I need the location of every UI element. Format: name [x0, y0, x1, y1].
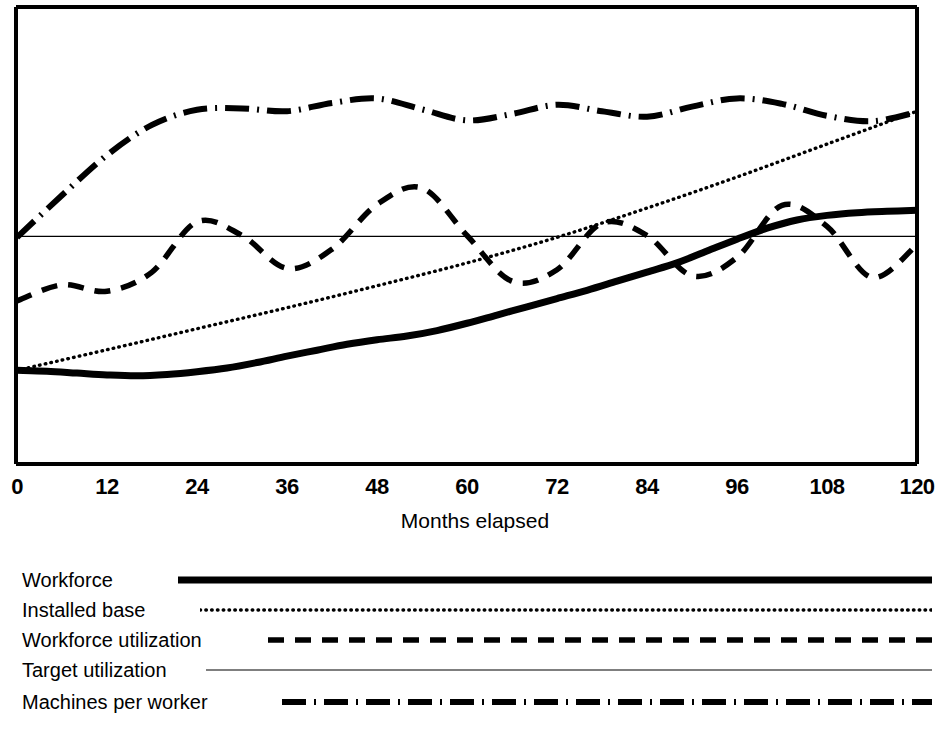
x-tick-label-48: 48 — [365, 474, 388, 500]
x-tick-label-60: 60 — [455, 474, 478, 500]
chart-figure: 01224364860728496108120 Months elapsed W… — [0, 0, 950, 742]
x-tick-label-72: 72 — [545, 474, 568, 500]
legend-line-sample-target-utilization — [206, 658, 932, 682]
legend-row-workforce[interactable]: Workforce — [0, 568, 950, 598]
plot-background — [0, 0, 950, 500]
legend-label-workforce: Workforce — [22, 568, 113, 592]
legend-label-workforce-utilization: Workforce utilization — [22, 628, 202, 652]
x-axis-title: Months elapsed — [0, 508, 950, 534]
legend-row-workforce-utilization[interactable]: Workforce utilization — [0, 628, 950, 658]
legend-label-installed-base: Installed base — [22, 598, 145, 622]
legend-row-target-utilization[interactable]: Target utilization — [0, 658, 950, 688]
legend-line-sample-workforce — [178, 568, 932, 592]
x-tick-label-84: 84 — [635, 474, 658, 500]
legend-line-sample-workforce-utilization — [268, 628, 932, 652]
x-tick-label-36: 36 — [275, 474, 298, 500]
legend-row-machines-per-worker[interactable]: Machines per worker — [0, 690, 950, 720]
chart-legend: WorkforceInstalled baseWorkforce utiliza… — [0, 560, 950, 742]
legend-row-installed-base[interactable]: Installed base — [0, 598, 950, 628]
legend-line-sample-machines-per-worker — [282, 690, 932, 714]
legend-label-machines-per-worker: Machines per worker — [22, 690, 208, 714]
legend-line-sample-installed-base — [200, 598, 932, 622]
x-axis-tick-labels: 01224364860728496108120 — [0, 474, 950, 502]
x-tick-label-0: 0 — [11, 474, 23, 500]
x-tick-label-24: 24 — [185, 474, 208, 500]
x-tick-label-120: 120 — [899, 474, 934, 500]
legend-label-target-utilization: Target utilization — [22, 658, 167, 682]
x-tick-label-108: 108 — [809, 474, 844, 500]
x-tick-label-12: 12 — [95, 474, 118, 500]
x-tick-label-96: 96 — [725, 474, 748, 500]
plot-area — [0, 0, 950, 500]
